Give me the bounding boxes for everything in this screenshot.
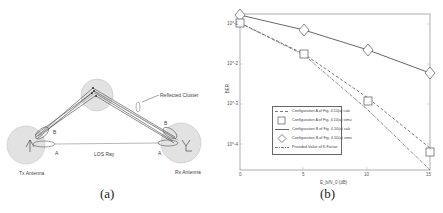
reflected-cluster-label: Reflected Cluster xyxy=(160,92,198,98)
los-ray-label: LOS Ray xyxy=(94,151,114,157)
tx-beam-a-label: A xyxy=(55,150,58,156)
propagation-diagram xyxy=(0,0,222,213)
x-tick-label: 15 xyxy=(426,172,431,177)
y-tick-label: 10^-3 xyxy=(227,101,238,106)
cluster-pointer xyxy=(142,95,159,102)
los-ray-line xyxy=(55,143,160,144)
series-config-b-simu xyxy=(235,9,435,79)
legend-item: Provided Value of K-Factor xyxy=(273,143,341,152)
rx-beam-a-label: A xyxy=(158,150,161,156)
x-tick-label: 5 xyxy=(302,172,305,177)
legend-item: Configuration B of Fig. 4.10(a) calc xyxy=(273,125,341,134)
x-axis-label: E_b/N_0 (dB) xyxy=(320,180,347,185)
diagram-panel: Reflected Cluster LOS Ray Tx Antenna Rx … xyxy=(0,0,222,213)
caption-b: (b) xyxy=(320,186,335,202)
tx-antenna-label: Tx Antenna xyxy=(19,170,44,176)
legend-item: Configuration A of Fig. 4.10(a) simu xyxy=(273,116,341,125)
tx-beam-b-label: B xyxy=(53,129,56,135)
y-axis-label: BER xyxy=(225,84,230,93)
y-tick-label: 10^-2 xyxy=(227,61,238,66)
y-tick-label: 10^-4 xyxy=(227,142,238,147)
ber-chart-panel: 10^-1 10^-2 10^-3 10^-4 BER 0 5 10 15 E_… xyxy=(222,0,443,213)
caption-a: (a) xyxy=(100,186,114,202)
y-tick-label: 10^-1 xyxy=(227,21,238,26)
series-config-b-calc xyxy=(240,15,430,73)
legend-item: Configuration A of Fig. 4.10(a) calc xyxy=(273,107,341,116)
rx-region xyxy=(161,123,201,163)
rx-antenna-label: Rx Antenna xyxy=(175,169,201,175)
cluster-region xyxy=(81,79,113,111)
legend-item: Configuration B of Fig. 4.10(a) simu xyxy=(273,134,341,143)
chart-legend: Configuration A of Fig. 4.10(a) calc Con… xyxy=(272,106,342,155)
x-tick-label: 10 xyxy=(364,172,369,177)
x-tick-label: 0 xyxy=(239,172,242,177)
rx-beam-b-label: B xyxy=(164,120,167,126)
cluster-ellipse xyxy=(136,102,140,112)
